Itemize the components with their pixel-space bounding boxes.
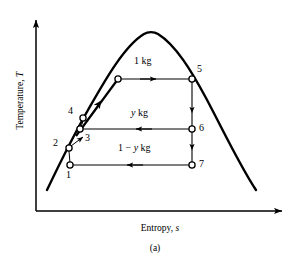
x-axis-label: Entropy, s bbox=[100, 224, 220, 234]
pump-line-1-2 bbox=[69, 151, 70, 163]
y-axis-label: Temperature, T bbox=[16, 58, 26, 144]
figure-container: 1 2 3 4 5 6 7 1 kg y kg 1 − y kg Tempera… bbox=[0, 0, 306, 262]
y-axis-label-symbol: T bbox=[15, 72, 25, 77]
flow-label-1my-plain: 1 − bbox=[118, 142, 134, 153]
saturation-dome-curve bbox=[47, 32, 256, 190]
state-label-2: 2 bbox=[53, 138, 58, 148]
state-label-5: 5 bbox=[197, 64, 202, 74]
flow-label-1my-suffix: kg bbox=[138, 142, 151, 153]
flow-label-1-minus-y-kg: 1 − y kg bbox=[118, 143, 151, 153]
state-label-3: 3 bbox=[85, 133, 90, 143]
flow-label-1kg: 1 kg bbox=[134, 56, 152, 66]
state-label-4: 4 bbox=[68, 106, 73, 116]
state-point-7[interactable] bbox=[189, 162, 195, 168]
y-axis-label-text: Temperature, bbox=[15, 79, 25, 129]
state-point-1[interactable] bbox=[67, 162, 73, 168]
figure-caption: (a) bbox=[120, 244, 190, 254]
x-axis-label-text: Entropy, bbox=[141, 223, 173, 233]
state-point-6[interactable] bbox=[189, 126, 195, 132]
flow-label-y-kg-suffix: kg bbox=[135, 107, 148, 118]
state-point-2[interactable] bbox=[66, 145, 72, 151]
state-label-1: 1 bbox=[66, 170, 71, 180]
state-label-7: 7 bbox=[199, 159, 204, 169]
state-point-turbine-inlet[interactable] bbox=[115, 76, 121, 82]
state-point-4[interactable] bbox=[80, 115, 86, 121]
state-point-5[interactable] bbox=[189, 76, 195, 82]
flow-label-1kg-plain: 1 kg bbox=[134, 55, 152, 66]
flow-label-y-kg: y kg bbox=[131, 108, 148, 118]
state-label-6: 6 bbox=[199, 123, 204, 133]
x-axis-label-symbol: s bbox=[176, 223, 180, 233]
state-point-3[interactable] bbox=[77, 126, 83, 132]
